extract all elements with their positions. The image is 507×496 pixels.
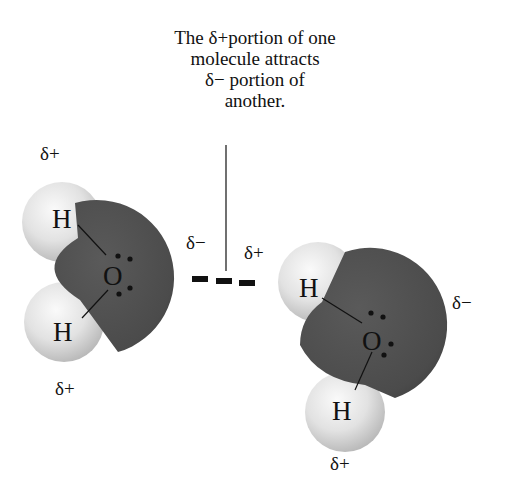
lone-pair-dot xyxy=(381,352,386,357)
caption-line: molecule attracts xyxy=(105,48,405,69)
atom-label-o: O xyxy=(362,326,382,356)
atom-label-o: O xyxy=(103,261,123,291)
charge-label-left-top-h: δ+ xyxy=(40,143,60,165)
charge-label-right-o: δ− xyxy=(452,292,472,314)
charge-label-right-top-h: δ+ xyxy=(244,242,264,264)
hydrogen-bond-dashes xyxy=(192,276,255,286)
caption-line: δ− portion of xyxy=(105,69,405,90)
atom-label-h: H xyxy=(332,396,352,426)
caption-text: The δ+portion of one molecule attracts δ… xyxy=(105,27,405,111)
charge-label-left-o: δ− xyxy=(186,232,206,254)
caption-line: another. xyxy=(105,90,405,111)
atom-label-h: H xyxy=(299,273,319,303)
atom-label-h: H xyxy=(53,317,73,347)
lone-pair-dot xyxy=(116,291,121,296)
lone-pair-dot xyxy=(368,310,373,315)
lone-pair-dot xyxy=(115,253,120,258)
charge-label-left-bottom-h: δ+ xyxy=(55,378,75,400)
atom-label-h: H xyxy=(52,204,72,234)
lone-pair-dot xyxy=(380,314,385,319)
lone-pair-dot xyxy=(127,256,132,261)
water-molecule-left xyxy=(22,182,174,362)
caption-line: The δ+portion of one xyxy=(105,27,405,48)
lone-pair-dot xyxy=(127,285,132,290)
lone-pair-dot xyxy=(388,341,393,346)
charge-label-right-bottom-h: δ+ xyxy=(330,453,350,475)
